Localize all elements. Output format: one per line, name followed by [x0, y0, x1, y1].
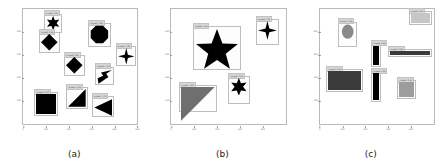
- shape-star5: [195, 28, 239, 72]
- detection-box[interactable]: shape3 : 0.86: [66, 87, 88, 109]
- x-axis-tick: 0: [171, 129, 172, 131]
- detection-box[interactable]: shape5 : 0.99: [193, 26, 241, 70]
- shape-rect: [373, 73, 379, 100]
- shape-square: [36, 94, 56, 114]
- shape-rect: [411, 13, 430, 23]
- shape-diamond: [41, 34, 58, 51]
- shape-arrow: [97, 69, 112, 84]
- detection-box[interactable]: shape3 : 0.79: [92, 96, 115, 117]
- x-axis-tick: 200: [67, 129, 71, 131]
- shape-rect: [328, 71, 361, 90]
- x-axis-tick: 300: [238, 129, 242, 131]
- detection-box[interactable]: shape8 : 0.95: [88, 23, 111, 47]
- y-axis-tick: 300: [11, 54, 21, 56]
- detection-figure: 1002003004000100200300400500shape6 : 0.9…: [0, 0, 445, 163]
- y-axis-tick: 300: [159, 54, 169, 56]
- x-axis-tick: 400: [112, 129, 116, 131]
- y-axis-tick: 100: [11, 100, 21, 102]
- y-axis-tick: 200: [308, 77, 318, 79]
- y-axis-tick: 200: [159, 77, 169, 79]
- x-axis-tick: 400: [261, 129, 265, 131]
- detection-box[interactable]: shape3 : 0.74: [95, 67, 114, 85]
- x-axis-tick: 200: [363, 129, 367, 131]
- detection-box[interactable]: shape4 : 0.89: [388, 49, 431, 57]
- detection-box[interactable]: shape0 : 0.94: [338, 22, 357, 47]
- shape-star4: [258, 21, 277, 40]
- x-axis-tick: 100: [192, 129, 196, 131]
- x-axis-tick: 0: [319, 129, 320, 131]
- panel-caption: (b): [148, 149, 296, 159]
- y-axis-tick: 400: [11, 31, 21, 33]
- panel-caption: (a): [0, 149, 148, 159]
- shape-rect: [399, 82, 413, 96]
- x-axis-tick: 100: [44, 129, 48, 131]
- detection-box[interactable]: shape4 : 0.90: [64, 55, 85, 76]
- plot-area: 1002003004000100200300400shape0 : 0.94sh…: [319, 8, 435, 125]
- y-axis-tick: 400: [159, 31, 169, 33]
- panel-c: 1002003004000100200300400shape0 : 0.94sh…: [297, 0, 445, 163]
- detection-box[interactable]: shape4 : 0.83: [397, 80, 415, 98]
- y-axis-tick: 100: [159, 100, 169, 102]
- x-axis-tick: 200: [215, 129, 219, 131]
- shape-tri-left: [94, 98, 113, 117]
- shape-rect: [390, 51, 429, 55]
- shape-rect: [373, 46, 379, 65]
- detection-box[interactable]: shape3 : 0.87: [179, 85, 217, 113]
- y-axis-tick: 200: [11, 77, 21, 79]
- detection-box[interactable]: shape4 : 0.95: [371, 71, 381, 102]
- detection-box[interactable]: shape6 : 0.91: [228, 76, 250, 105]
- shape-diamond: [66, 57, 83, 74]
- detection-box[interactable]: shape4 : 0.96: [371, 44, 381, 67]
- detection-box[interactable]: shape4 : 0.81: [116, 46, 137, 67]
- shape-ellipse: [340, 24, 355, 39]
- y-axis-tick: 400: [308, 31, 318, 33]
- panel-b: 1002003004000100200300400shape5 : 0.99sh…: [148, 0, 296, 163]
- panel-a: 1002003004000100200300400500shape6 : 0.9…: [0, 0, 148, 163]
- x-axis-tick: 100: [340, 129, 344, 131]
- x-axis-tick: 300: [386, 129, 390, 131]
- detection-box[interactable]: shape4 : 0.93: [256, 19, 279, 44]
- detection-box[interactable]: shape4 : 0.88: [39, 32, 60, 53]
- x-axis-tick: 400: [409, 129, 413, 131]
- x-axis-tick: 0: [22, 129, 23, 131]
- detection-box[interactable]: shape4 : 0.97: [34, 92, 58, 116]
- y-axis-tick: 300: [308, 54, 318, 56]
- x-axis-tick: 300: [89, 129, 93, 131]
- plot-area: 1002003004000100200300400500shape6 : 0.9…: [22, 8, 138, 125]
- detection-box[interactable]: shape4 : 0.90: [409, 11, 432, 25]
- shape-tri-upper-left: [181, 87, 215, 121]
- panel-caption: (c): [297, 149, 445, 159]
- shape-star4: [118, 48, 135, 65]
- plot-area: 1002003004000100200300400shape5 : 0.99sh…: [170, 8, 286, 125]
- shape-tri-lower-right: [68, 89, 86, 107]
- y-axis-tick: 100: [308, 100, 318, 102]
- shape-octagon: [90, 25, 109, 44]
- shape-star6: [230, 78, 248, 96]
- detection-box[interactable]: shape4 : 0.98: [326, 69, 363, 92]
- shape-star6: [46, 16, 60, 30]
- x-axis-tick: 500: [135, 129, 139, 131]
